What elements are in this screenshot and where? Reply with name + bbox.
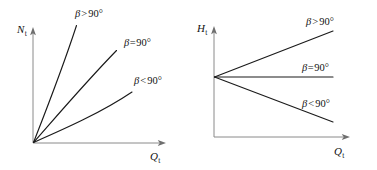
annotation-beta-eq-90: β=90° xyxy=(123,37,151,48)
chart-panel-head: Ht Qt β>90° β=90° β<90° xyxy=(188,0,377,170)
y-axis-arrowhead xyxy=(30,27,36,35)
curve-beta-gt-90 xyxy=(34,26,77,143)
figure-root: Nt Qt β>90° β=90° β<90° Ht Qt β>90° β=90… xyxy=(0,0,377,170)
y-axis-label: Nt xyxy=(16,23,28,38)
annotation-beta-value: 90 xyxy=(319,16,330,27)
annotation-beta-lt-90: β<90° xyxy=(133,75,162,86)
y-axis-label-subscript: t xyxy=(25,29,28,38)
annotation-beta-relation: = xyxy=(130,37,136,48)
x-axis-arrowhead xyxy=(158,140,166,146)
annotation-beta-relation: > xyxy=(312,16,318,27)
annotation-beta-value: 90 xyxy=(88,8,99,19)
annotation-beta-value: 90 xyxy=(147,75,158,86)
y-axis-label-main: N xyxy=(16,23,25,35)
annotation-beta-relation: < xyxy=(140,75,146,86)
y-axis-label: Ht xyxy=(196,22,208,37)
annotation-beta-degree: ° xyxy=(326,98,330,109)
annotation-beta-lt-90: β<90° xyxy=(301,98,330,109)
annotation-beta-symbol: β xyxy=(74,8,81,19)
annotation-beta-value: 90 xyxy=(315,98,326,109)
x-axis-label: Qt xyxy=(334,145,345,160)
y-axis-arrowhead xyxy=(211,26,217,34)
curve-beta-eq-90 xyxy=(34,51,117,143)
annotation-beta-degree: ° xyxy=(147,37,151,48)
annotation-beta-degree: ° xyxy=(158,75,162,86)
x-axis-label-subscript: t xyxy=(158,156,161,165)
annotation-beta-degree: ° xyxy=(99,8,103,19)
x-axis-label-main: Q xyxy=(334,145,342,157)
y-axis-label-subscript: t xyxy=(205,28,208,37)
annotation-beta-relation: > xyxy=(81,8,87,19)
annotation-beta-gt-90: β>90° xyxy=(305,16,334,27)
annotation-beta-symbol: β xyxy=(133,75,140,86)
annotation-beta-gt-90: β>90° xyxy=(74,8,103,19)
annotation-beta-eq-90: β=90° xyxy=(301,62,329,73)
annotation-beta-symbol: β xyxy=(301,98,308,109)
x-axis-label: Qt xyxy=(150,150,161,165)
annotation-beta-symbol: β xyxy=(305,16,312,27)
x-axis-arrowhead xyxy=(342,134,350,140)
x-axis-label-main: Q xyxy=(150,150,158,162)
annotation-beta-relation: < xyxy=(308,98,314,109)
annotation-beta-degree: ° xyxy=(330,16,334,27)
annotation-beta-degree: ° xyxy=(325,62,329,73)
annotation-beta-value: 90 xyxy=(136,37,147,48)
chart-panel-power: Nt Qt β>90° β=90° β<90° xyxy=(0,0,188,170)
annotation-beta-value: 90 xyxy=(314,62,325,73)
curve-beta-lt-90 xyxy=(34,92,133,143)
annotation-beta-relation: = xyxy=(308,62,314,73)
x-axis-label-subscript: t xyxy=(342,151,345,160)
